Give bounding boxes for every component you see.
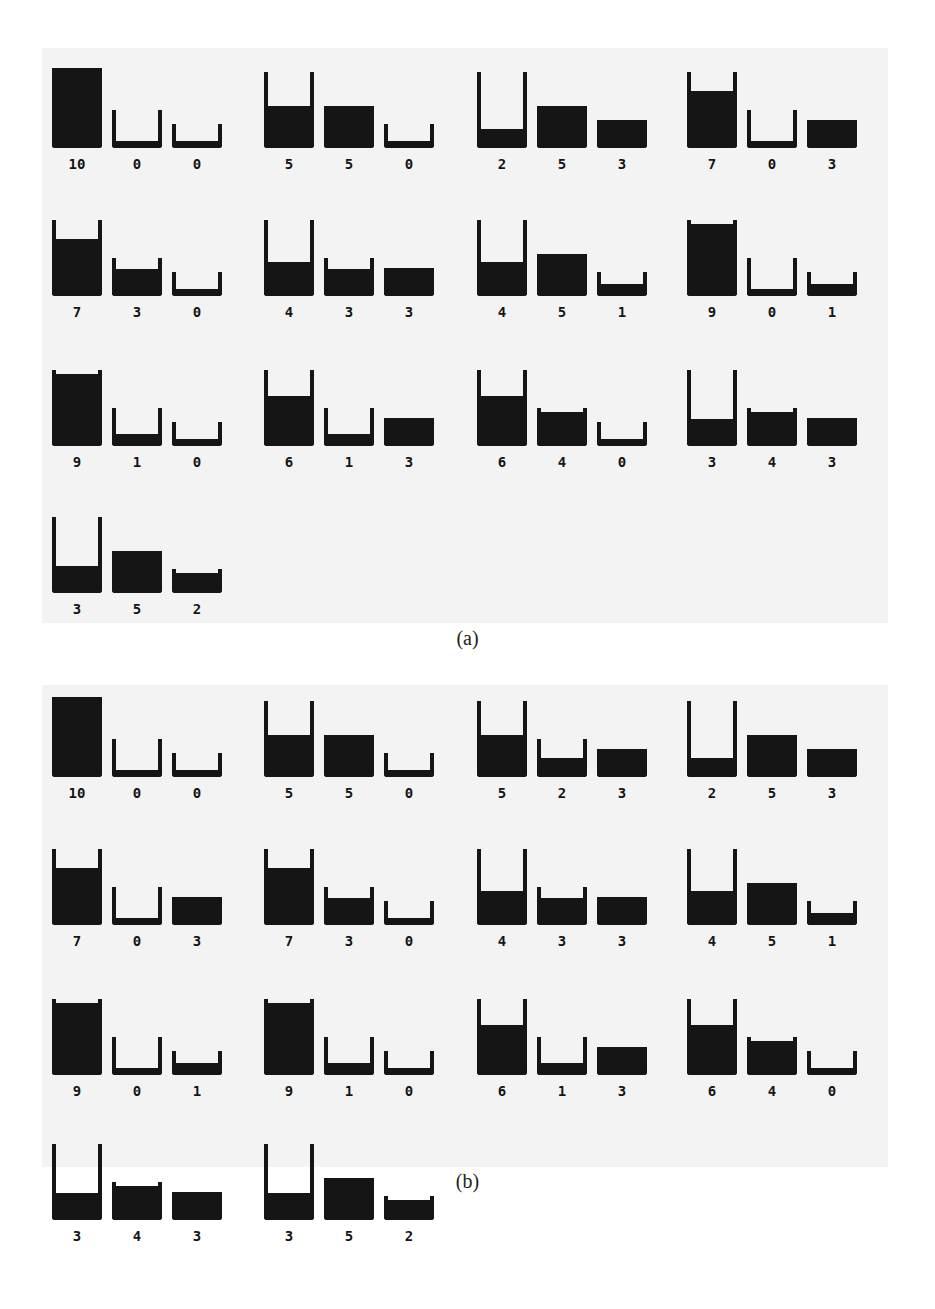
jug-10-icon [52,999,102,1075]
jug-10-icon [477,72,527,148]
water-level [477,129,527,145]
jug-5-icon [537,1037,587,1075]
water-level [597,284,647,293]
jug-amount-label: 4 [112,1228,162,1244]
water-level [747,141,797,145]
water-level [477,735,527,774]
jug-10-icon [52,220,102,296]
jug-amount-label: 0 [384,785,434,801]
caption-a: (a) [0,627,935,650]
jug-amount-label: 2 [687,785,737,801]
water-level [384,1200,434,1217]
water-level [264,262,314,293]
jug-3-icon [597,1051,647,1075]
jug-state: 703 [52,845,232,955]
jug-3-icon [807,901,857,925]
jug-state: 901 [687,216,867,326]
jug-3-icon [384,272,434,296]
water-level [112,918,162,922]
water-level [52,1003,102,1072]
jug-state: 613 [477,995,657,1105]
jug-5-icon [112,739,162,777]
water-level [324,106,374,145]
water-level [747,412,797,443]
water-level [172,770,222,774]
jug-5-icon [537,258,587,296]
jug-3-icon [172,422,222,446]
jug-amount-label: 3 [112,304,162,320]
jug-state: 523 [477,697,657,807]
jug-amount-label: 7 [52,304,102,320]
water-level [687,224,737,293]
jug-state: 352 [52,513,232,623]
jug-3-icon [597,272,647,296]
jug-amount-label: 5 [112,601,162,617]
jug-amount-label: 3 [172,933,222,949]
water-level [687,1025,737,1072]
jug-10-icon [264,999,314,1075]
jug-amount-label: 0 [384,933,434,949]
jug-amount-label: 3 [172,1228,222,1244]
jug-amount-label: 4 [264,304,314,320]
water-level [52,566,102,590]
jug-5-icon [537,110,587,148]
jug-5-icon [747,408,797,446]
water-level [477,1025,527,1072]
jug-state: 352 [264,1140,444,1250]
jug-3-icon [597,124,647,148]
water-level [597,439,647,443]
jug-5-icon [112,110,162,148]
water-level [52,1193,102,1217]
jug-amount-label: 5 [264,156,314,172]
jug-5-icon [747,258,797,296]
water-level [324,1063,374,1072]
jug-3-icon [172,901,222,925]
jug-3-icon [807,1051,857,1075]
jug-amount-label: 9 [264,1083,314,1099]
water-level [747,289,797,293]
jug-3-icon [807,422,857,446]
water-level [807,749,857,774]
water-level [747,735,797,774]
water-level [324,735,374,774]
water-level [172,439,222,443]
jug-amount-label: 10 [52,156,102,172]
jug-amount-label: 3 [384,304,434,320]
water-level [477,396,527,443]
jug-amount-label: 3 [52,1228,102,1244]
jug-5-icon [112,258,162,296]
water-level [264,106,314,145]
jug-amount-label: 5 [324,156,374,172]
jug-amount-label: 5 [537,156,587,172]
panel-b: 1000550523253703730433451901910613640343… [42,685,888,1167]
jug-amount-label: 6 [687,1083,737,1099]
jug-amount-label: 0 [112,785,162,801]
jug-5-icon [324,408,374,446]
jug-3-icon [807,124,857,148]
water-level [597,749,647,774]
jug-3-icon [172,569,222,593]
water-level [112,1068,162,1072]
jug-10-icon [477,999,527,1075]
jug-state: 730 [264,845,444,955]
jug-amount-label: 0 [384,1083,434,1099]
water-level [687,891,737,922]
jug-3-icon [384,1196,434,1220]
water-level [687,91,737,145]
jug-amount-label: 6 [264,454,314,470]
jug-5-icon [324,110,374,148]
jug-amount-label: 6 [477,1083,527,1099]
jug-3-icon [172,272,222,296]
jug-5-icon [324,1037,374,1075]
jug-amount-label: 6 [477,454,527,470]
jug-state: 1000 [52,697,232,807]
jug-state: 613 [264,366,444,476]
water-level [597,1047,647,1072]
jug-state: 640 [477,366,657,476]
jug-3-icon [384,1051,434,1075]
jug-3-icon [597,901,647,925]
jug-amount-label: 4 [537,454,587,470]
water-level [172,573,222,590]
jug-5-icon [537,887,587,925]
jug-5-icon [112,408,162,446]
